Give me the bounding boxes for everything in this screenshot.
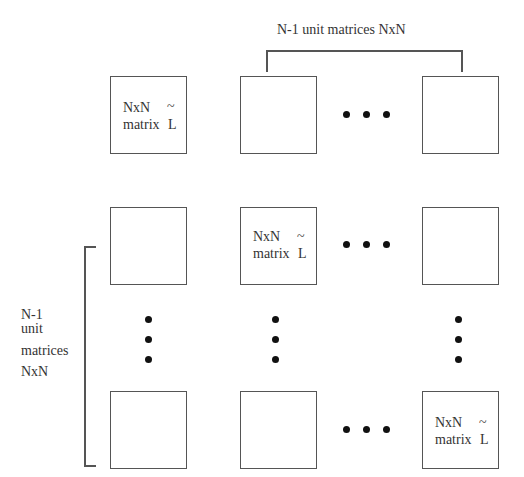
matrix-box-r1c1: NxN matrix L ~: [110, 76, 187, 154]
tilde-icon: ~: [479, 415, 487, 431]
matrix-box-r3c1: [110, 391, 187, 469]
top-brace-label: N-1 unit matrices NxN: [277, 22, 406, 38]
tilde-icon: ~: [297, 229, 305, 245]
tilde-icon: ~: [167, 99, 175, 115]
matrix-box-r2c1: [110, 207, 187, 285]
matrix-box-r3c4: NxN matrix L ~: [422, 391, 499, 469]
matrix-box-r1c2: [240, 76, 317, 154]
matrix-box-r3c2: [240, 391, 317, 469]
matrix-box-r1c4: [422, 76, 499, 154]
matrix-box-r2c4: [422, 207, 499, 285]
matrix-box-r2c2: NxN matrix L ~: [240, 207, 317, 285]
